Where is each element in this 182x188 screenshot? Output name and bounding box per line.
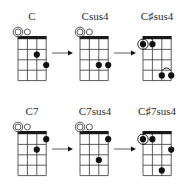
arrow-right-icon (131, 146, 136, 151)
finger-dot-icon (96, 62, 102, 68)
arrow-right-icon (131, 50, 136, 55)
open-string-icon (77, 29, 83, 35)
finger-dot-icon (168, 147, 174, 153)
finger-dot-icon (43, 136, 49, 142)
finger-dot-icon (149, 136, 155, 142)
open-string-icon (77, 124, 83, 130)
open-string-icon (15, 29, 21, 35)
arrow-right-icon (68, 50, 73, 55)
open-string-icon (86, 124, 92, 130)
open-string-icon (24, 29, 30, 35)
finger-dot-icon (34, 52, 40, 58)
finger-dot-icon (159, 167, 165, 173)
nut-bar (18, 36, 47, 39)
finger-dot-icon (105, 62, 111, 68)
nut-bar (80, 131, 109, 134)
finger-dot-icon (168, 72, 174, 78)
finger-dot-icon (149, 41, 155, 47)
finger-dot-icon (140, 136, 146, 142)
finger-dot-icon (140, 41, 146, 47)
finger-dot-icon (43, 62, 49, 68)
open-string-icon (24, 124, 30, 130)
chord-diagrams-svg (0, 0, 182, 188)
nut-bar (18, 131, 47, 134)
finger-dot-icon (34, 147, 40, 153)
open-string-icon (86, 29, 92, 35)
finger-dot-icon (96, 157, 102, 163)
chord-progression-diagram: C Csus4 C♯sus4 C7 C7sus4 C♯7sus4 (0, 0, 182, 188)
nut-bar (80, 36, 109, 39)
finger-dot-icon (105, 136, 111, 142)
open-string-icon (15, 124, 21, 130)
arrow-right-icon (68, 146, 73, 151)
finger-dot-icon (159, 72, 165, 78)
